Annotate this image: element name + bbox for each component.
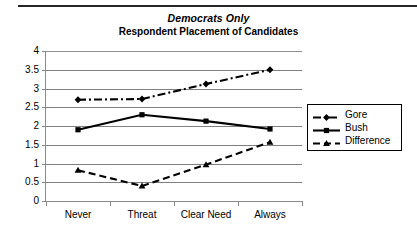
data-point-marker — [203, 81, 210, 88]
y-tick-label: 1 — [33, 159, 39, 169]
data-point-marker — [75, 96, 82, 103]
legend-item-gore[interactable]: Gore — [308, 108, 401, 121]
legend-swatch-difference — [312, 135, 341, 146]
y-tick-label: 2.5 — [25, 102, 39, 112]
chart-title: Democrats Only — [0, 12, 417, 25]
x-tick-mark — [302, 201, 303, 206]
legend-label: Difference — [345, 135, 390, 146]
chart-subtitle: Respondent Placement of Candidates — [0, 25, 417, 38]
data-point-marker — [323, 114, 330, 121]
series-line — [78, 115, 270, 130]
plot-area: 00.511.522.533.54 NeverThreatClear NeedA… — [46, 51, 302, 201]
y-tick-label: 0 — [33, 196, 39, 206]
x-tick-mark — [238, 201, 239, 206]
data-point-marker — [267, 126, 272, 131]
series-difference — [75, 139, 274, 189]
x-tick-label: Always — [254, 209, 286, 221]
legend-swatch-bush — [312, 122, 341, 133]
y-tick-label: 1.5 — [25, 140, 39, 150]
series-line — [78, 70, 270, 100]
data-point-marker — [139, 112, 144, 117]
chart-figure: Democrats Only Respondent Placement of C… — [0, 0, 417, 239]
series-layer — [46, 51, 302, 201]
data-point-marker — [267, 66, 274, 73]
y-tick-label: 0.5 — [25, 177, 39, 187]
chart-title-block: Democrats Only Respondent Placement of C… — [0, 12, 417, 38]
data-point-marker — [203, 119, 208, 124]
data-point-marker — [267, 139, 274, 145]
x-tick-mark — [110, 201, 111, 206]
series-bush — [75, 112, 272, 132]
y-tick-label: 3.5 — [25, 65, 39, 75]
legend-label: Bush — [345, 122, 368, 133]
data-point-marker — [139, 96, 146, 103]
series-line — [78, 142, 270, 186]
x-tick-label: Threat — [128, 209, 157, 221]
legend-item-bush[interactable]: Bush — [308, 121, 401, 134]
series-gore — [75, 66, 274, 103]
legend-item-difference[interactable]: Difference — [308, 134, 401, 147]
y-tick-label: 2 — [33, 121, 39, 131]
legend-swatch-gore — [312, 109, 341, 120]
x-tick-label: Never — [65, 209, 92, 221]
header-divider — [18, 5, 417, 7]
chart-legend: GoreBushDifference — [307, 104, 402, 151]
legend-label: Gore — [345, 109, 367, 120]
y-tick-label: 4 — [33, 46, 39, 56]
data-point-marker — [324, 128, 329, 133]
y-tick-label: 3 — [33, 84, 39, 94]
data-point-marker — [75, 127, 80, 132]
x-tick-mark — [46, 201, 47, 206]
x-tick-mark — [174, 201, 175, 206]
x-tick-label: Clear Need — [181, 209, 232, 221]
